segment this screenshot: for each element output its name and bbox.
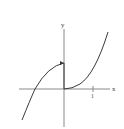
- left-branch-curve: [22, 63, 64, 120]
- x-tick-label-1: 1: [91, 93, 94, 99]
- x-axis-label: x: [112, 85, 116, 92]
- y-axis-label: y: [60, 21, 65, 29]
- right-branch-curve: [64, 32, 108, 89]
- endpoint-arrow-icon: [60, 61, 64, 65]
- function-graph: y x 1: [0, 0, 124, 129]
